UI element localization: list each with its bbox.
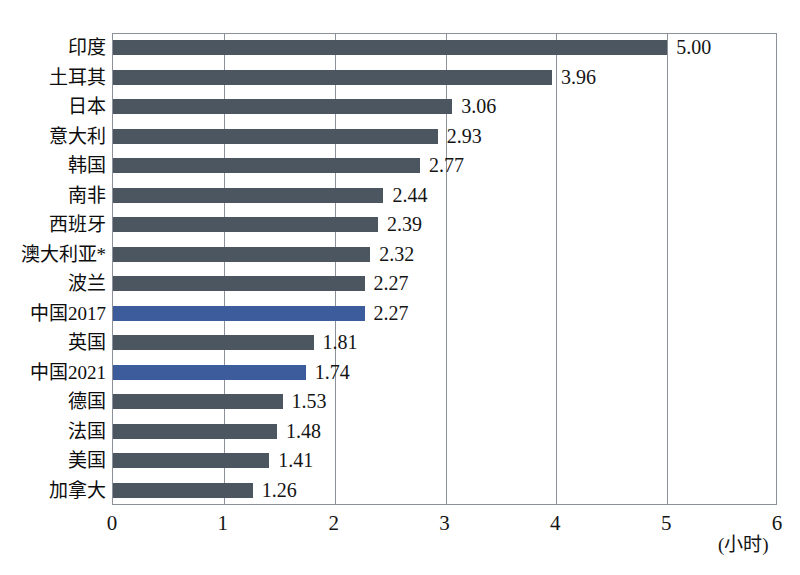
y-axis-label: 加拿大 xyxy=(0,476,106,506)
bar-value-label: 2.77 xyxy=(429,151,464,180)
bar-value-label: 1.53 xyxy=(292,387,327,416)
x-axis-unit-label: (小时) xyxy=(718,533,769,557)
bar-value-label: 2.32 xyxy=(379,240,414,269)
y-axis-label: 中国2021 xyxy=(0,358,106,388)
bar xyxy=(113,453,269,468)
bar xyxy=(113,40,667,55)
bar-value-label: 1.26 xyxy=(262,476,297,505)
y-axis-label: 中国2017 xyxy=(0,299,106,329)
bar-row: 5.00 xyxy=(112,33,777,63)
y-axis-label: 韩国 xyxy=(0,151,106,181)
bar-row: 1.26 xyxy=(112,476,777,506)
x-tick-label: 0 xyxy=(107,508,118,538)
y-axis-label: 澳大利亚* xyxy=(0,240,106,270)
x-tick-label: 2 xyxy=(328,508,339,538)
bar-value-label: 5.00 xyxy=(676,33,711,62)
x-axis-tick-labels: 0123456 xyxy=(0,508,800,542)
bar-value-label: 2.93 xyxy=(447,122,482,151)
bar xyxy=(113,217,378,232)
bar-value-label: 3.96 xyxy=(561,63,596,92)
bar xyxy=(113,99,452,114)
bar-value-label: 3.06 xyxy=(461,92,496,121)
bar-row: 2.93 xyxy=(112,122,777,152)
bar-row: 3.96 xyxy=(112,63,777,93)
y-axis-label: 波兰 xyxy=(0,269,106,299)
y-axis-label: 法国 xyxy=(0,417,106,447)
bar-highlighted xyxy=(113,365,306,380)
bar xyxy=(113,335,314,350)
bar-value-label: 1.81 xyxy=(323,328,358,357)
bar-value-label: 2.27 xyxy=(374,269,409,298)
bar xyxy=(113,158,420,173)
bar-rows: 5.003.963.062.932.772.442.392.322.272.27… xyxy=(112,33,777,505)
bar-value-label: 1.41 xyxy=(278,446,313,475)
y-axis-label: 印度 xyxy=(0,33,106,63)
y-axis-label: 日本 xyxy=(0,92,106,122)
bar xyxy=(113,276,365,291)
bar-row: 2.32 xyxy=(112,240,777,270)
y-axis-label: 南非 xyxy=(0,181,106,211)
bar-value-label: 2.44 xyxy=(392,181,427,210)
bar-row: 1.81 xyxy=(112,328,777,358)
bar-value-label: 2.39 xyxy=(387,210,422,239)
bar xyxy=(113,424,277,439)
bar xyxy=(113,70,552,85)
bar-row: 1.74 xyxy=(112,358,777,388)
bar-row: 2.77 xyxy=(112,151,777,181)
y-axis-label: 德国 xyxy=(0,387,106,417)
y-axis-label: 土耳其 xyxy=(0,63,106,93)
y-axis-label: 美国 xyxy=(0,446,106,476)
bar-row: 1.48 xyxy=(112,417,777,447)
bar-row: 1.53 xyxy=(112,387,777,417)
x-tick-label: 3 xyxy=(439,508,450,538)
bar xyxy=(113,394,283,409)
y-axis-label: 西班牙 xyxy=(0,210,106,240)
bar-row: 2.27 xyxy=(112,269,777,299)
bar-value-label: 1.48 xyxy=(286,417,321,446)
x-tick-label: 1 xyxy=(218,508,229,538)
bar-row: 2.39 xyxy=(112,210,777,240)
bar xyxy=(113,483,253,498)
bar xyxy=(113,188,383,203)
bar xyxy=(113,129,438,144)
bar-value-label: 2.27 xyxy=(374,299,409,328)
bar-highlighted xyxy=(113,306,365,321)
bar-row: 1.41 xyxy=(112,446,777,476)
bar-value-label: 1.74 xyxy=(315,358,350,387)
bar-chart: 印度土耳其日本意大利韩国南非西班牙澳大利亚*波兰中国2017英国中国2021德国… xyxy=(0,0,800,575)
bar-row: 2.44 xyxy=(112,181,777,211)
x-tick-label: 5 xyxy=(661,508,672,538)
bar-row: 3.06 xyxy=(112,92,777,122)
x-tick-label: 4 xyxy=(550,508,561,538)
y-axis-label: 英国 xyxy=(0,328,106,358)
x-tick-label: 6 xyxy=(772,508,783,538)
y-axis-category-labels: 印度土耳其日本意大利韩国南非西班牙澳大利亚*波兰中国2017英国中国2021德国… xyxy=(0,33,106,505)
bar xyxy=(113,247,370,262)
bar-row: 2.27 xyxy=(112,299,777,329)
y-axis-label: 意大利 xyxy=(0,122,106,152)
